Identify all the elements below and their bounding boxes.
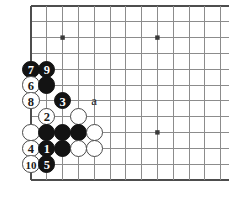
go-stone-black bbox=[54, 140, 71, 157]
move-number-label: 3 bbox=[55, 96, 70, 109]
go-stone-black-move-3: 3 bbox=[54, 92, 71, 109]
go-stone-black bbox=[38, 76, 55, 93]
move-number-label: 4 bbox=[23, 143, 38, 156]
move-number-label: 2 bbox=[39, 111, 54, 124]
move-number-label: 8 bbox=[23, 96, 38, 109]
go-stone-black-move-7: 7 bbox=[22, 61, 39, 78]
board-point-letter-marker: a bbox=[86, 94, 102, 107]
go-stone-black-move-5: 5 bbox=[38, 155, 55, 172]
go-board-diagram: 79683241105 a bbox=[0, 0, 229, 202]
move-number-label: 1 bbox=[39, 143, 54, 156]
go-stone-white bbox=[70, 140, 87, 157]
move-number-label: 9 bbox=[39, 64, 54, 77]
star-point bbox=[155, 130, 159, 134]
star-point bbox=[60, 35, 64, 39]
move-number-label: 10 bbox=[23, 160, 38, 171]
go-stone-white-move-8: 8 bbox=[22, 92, 39, 109]
go-stone-white bbox=[86, 124, 103, 141]
move-number-label: 6 bbox=[23, 80, 38, 93]
go-stone-white-move-4: 4 bbox=[22, 140, 39, 157]
move-number-label: 5 bbox=[39, 159, 54, 172]
go-stone-black-move-9: 9 bbox=[38, 61, 55, 78]
go-stone-white-move-2: 2 bbox=[38, 108, 55, 125]
go-stone-white-move-6: 6 bbox=[22, 76, 39, 93]
star-point bbox=[155, 35, 159, 39]
go-stone-black bbox=[70, 124, 87, 141]
go-stone-black-move-1: 1 bbox=[38, 140, 55, 157]
go-stone-white-move-10: 10 bbox=[22, 155, 39, 172]
move-number-label: 7 bbox=[23, 64, 38, 77]
go-stone-white bbox=[86, 140, 103, 157]
go-stone-white bbox=[22, 124, 39, 141]
